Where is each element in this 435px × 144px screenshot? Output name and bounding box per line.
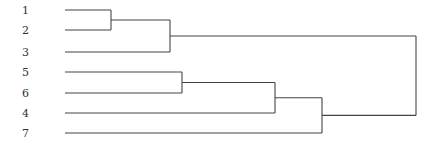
leaf-label-3: 3 [22,46,29,59]
dendrogram: 1235647 [0,0,435,144]
leaf-label-6: 6 [22,87,29,100]
leaf-label-2: 2 [22,24,29,37]
leaf-labels: 1235647 [22,4,29,140]
leaf-label-7: 7 [22,127,29,140]
branches [65,10,416,133]
leaf-label-1: 1 [22,4,29,17]
leaf-label-4: 4 [22,107,29,120]
leaf-label-5: 5 [22,66,29,79]
